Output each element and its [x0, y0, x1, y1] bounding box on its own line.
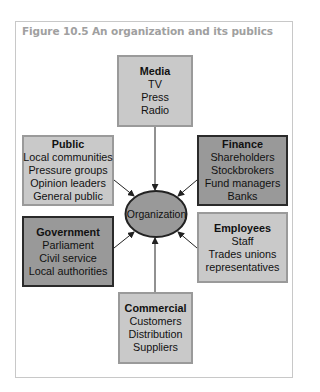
box-employees: Employees Staff Trades unions representa…: [197, 212, 288, 283]
box-item: Press: [141, 91, 169, 104]
organization-label: Organization: [126, 191, 187, 237]
box-item: Distribution: [128, 328, 182, 341]
box-item: Trades unions: [208, 248, 276, 261]
box-item: Shareholders: [210, 151, 274, 164]
box-item: Parliament: [42, 239, 94, 252]
box-finance: Finance Shareholders Stockbrokers Fund m…: [197, 135, 288, 206]
box-heading: Finance: [222, 138, 263, 151]
box-item: Local authorities: [29, 265, 108, 278]
box-item: Pressure groups: [28, 164, 107, 177]
box-heading: Government: [36, 226, 100, 239]
box-item: Customers: [129, 315, 181, 328]
box-item: TV: [148, 78, 162, 91]
box-public: Public Local communities Pressure groups…: [22, 135, 114, 206]
box-heading: Media: [140, 65, 171, 78]
box-heading: Employees: [214, 222, 271, 235]
box-heading: Public: [52, 138, 84, 151]
box-item: Suppliers: [133, 341, 178, 354]
box-item: General public: [33, 190, 103, 203]
box-item: Stockbrokers: [211, 164, 274, 177]
box-media: Media TV Press Radio: [117, 55, 193, 127]
box-item: Local communities: [23, 151, 112, 164]
box-government: Government Parliament Civil service Loca…: [22, 216, 114, 287]
box-item: Staff: [231, 235, 253, 248]
box-heading: Commercial: [125, 302, 187, 315]
box-item: Civil service: [39, 252, 97, 265]
box-item: Banks: [227, 190, 257, 203]
box-item: Opinion leaders: [30, 177, 106, 190]
box-item: Fund managers: [205, 177, 281, 190]
box-item: Radio: [141, 104, 169, 117]
box-commercial: Commercial Customers Distribution Suppli…: [118, 292, 193, 364]
box-item: representatives: [206, 261, 280, 274]
